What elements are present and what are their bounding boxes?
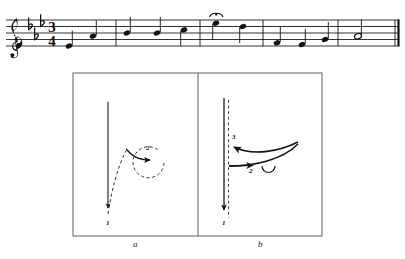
panel-b-beat-label-3: 3 <box>232 133 236 141</box>
panel-b <box>224 98 298 218</box>
panel-b-caption: b <box>258 239 263 249</box>
treble-clef-icon <box>10 18 22 58</box>
figure-root: 3 4 <box>0 0 405 259</box>
note-head <box>180 26 188 46</box>
svg-text:4: 4 <box>48 33 56 49</box>
panel-b-arc-mark <box>262 166 275 173</box>
note-head <box>321 22 329 43</box>
note-head <box>298 29 306 48</box>
panel-b-beat-label-1: 1 <box>222 219 226 227</box>
panel-b-beat-label-2: 2 <box>249 167 253 175</box>
fermata-icon <box>210 13 224 17</box>
panel-a-beat-label-1: 1 <box>106 219 110 227</box>
note-head <box>212 20 220 40</box>
panel-a-beat-label-2: 2 <box>146 144 150 152</box>
panel-a-caption: a <box>133 239 138 249</box>
key-signature-flats <box>28 14 45 40</box>
note-head <box>273 27 281 46</box>
note-head <box>89 21 97 40</box>
time-signature: 3 4 <box>48 19 56 49</box>
panel-a <box>108 102 164 214</box>
panel-a-beat2-dashed-path <box>108 151 126 214</box>
panel-b-beat3-arrow <box>234 142 298 152</box>
conducting-pattern-diagram <box>0 62 405 259</box>
staff-lines <box>6 20 399 46</box>
music-notation-staff: 3 4 <box>0 0 405 68</box>
note-head-half <box>354 20 363 40</box>
